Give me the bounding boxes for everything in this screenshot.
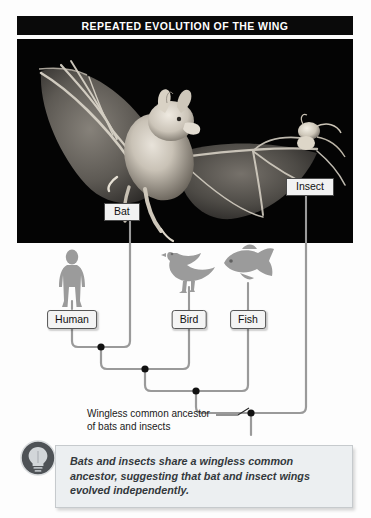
caption-text: Bats and insects share a wingless common… <box>70 454 342 498</box>
fish-silhouette <box>224 245 274 280</box>
caption-box: Bats and insects share a wingless common… <box>55 445 353 508</box>
bat-photograph <box>17 39 353 243</box>
tip-label-bird[interactable]: Bird <box>172 310 207 329</box>
page-title: REPEATED EVOLUTION OF THE WING <box>82 20 289 32</box>
callout-label-bat[interactable]: Bat <box>104 203 140 221</box>
figure-page: REPEATED EVOLUTION OF THE WING <box>0 0 371 518</box>
photo-callout-leader-lines <box>17 39 353 243</box>
tip-label-fish[interactable]: Fish <box>230 310 266 329</box>
cladogram-nodes <box>97 343 254 416</box>
figure-title-banner: REPEATED EVOLUTION OF THE WING <box>17 16 353 35</box>
human-silhouette <box>59 250 85 307</box>
callout-label-insect[interactable]: Insect <box>286 178 334 196</box>
tip-label-human[interactable]: Human <box>47 310 97 329</box>
wingless-ancestor-annotation: Wingless common ancestor of bats and ins… <box>87 408 210 433</box>
lightbulb-icon <box>20 440 56 476</box>
node-mammal-bird <box>141 365 148 372</box>
node-vertebrate <box>192 387 199 394</box>
node-human-bat <box>97 343 104 350</box>
node-wingless-common-ancestor <box>247 409 254 416</box>
cladogram-area: Human Bird Fish Wingless common ancestor… <box>0 243 371 518</box>
